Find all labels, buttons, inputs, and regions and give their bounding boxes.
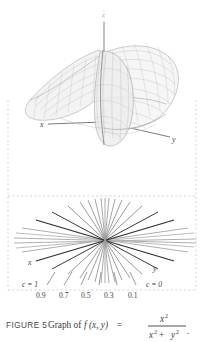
figure-page: x y z (0, 0, 211, 342)
contour-leader-ticks (47, 272, 136, 285)
contour-tick-0: 0.9 (36, 291, 46, 300)
surface-x-label: x (39, 120, 44, 129)
contour-tick-3: 0.3 (104, 291, 114, 300)
denominator-left-exponent: 2 (154, 328, 157, 335)
contour-x-label: x (27, 258, 32, 267)
caption-function-args: (x, y) (89, 320, 108, 331)
contour-tick-2: 0.5 (81, 291, 91, 300)
denominator-plus-sign: + (159, 330, 164, 340)
figure-graphic: x y z (0, 0, 211, 342)
contour-level-right: c = 0 (146, 280, 162, 289)
contour-tick-labels: 0.9 0.7 0.5 0.3 0.1 (36, 291, 138, 300)
surface-left-lobe (25, 50, 103, 120)
caption-function-name: f (84, 320, 88, 330)
denominator-right-exponent: 2 (176, 328, 179, 335)
contour-plot: x y c = 1 c = 0 0.9 0.7 0.5 0.3 0.1 (14, 198, 196, 300)
surface-y-label: y (171, 135, 176, 144)
surface-plot: x y z (25, 11, 178, 146)
figure-number-label: FIGURE 5 (6, 321, 47, 330)
contour-tick-4: 0.1 (128, 291, 138, 300)
surface-z-label: z (101, 11, 105, 19)
numerator-exponent: 2 (165, 312, 168, 319)
contour-y-label: y (152, 264, 157, 273)
contour-level-left: c = 1 (22, 280, 38, 289)
caption-graph-of-text: Graph of (48, 320, 82, 330)
caption-equals-sign: = (117, 320, 122, 330)
figure-caption: FIGURE 5 Graph of f (x, y) = x 2 x 2 + y… (6, 312, 189, 340)
caption-period: . (187, 326, 189, 336)
contour-tick-1: 0.7 (59, 291, 69, 300)
